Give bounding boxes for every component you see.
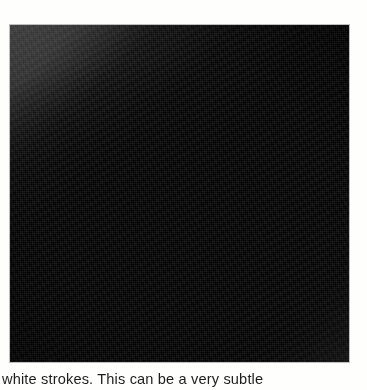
- figure-image: [10, 25, 349, 362]
- figure-vignette: [10, 25, 349, 362]
- body-text-block: white strokes. This can be a very subtle: [2, 371, 365, 390]
- body-text-line: white strokes. This can be a very subtle: [2, 371, 365, 388]
- page-surface: white strokes. This can be a very subtle: [0, 0, 367, 390]
